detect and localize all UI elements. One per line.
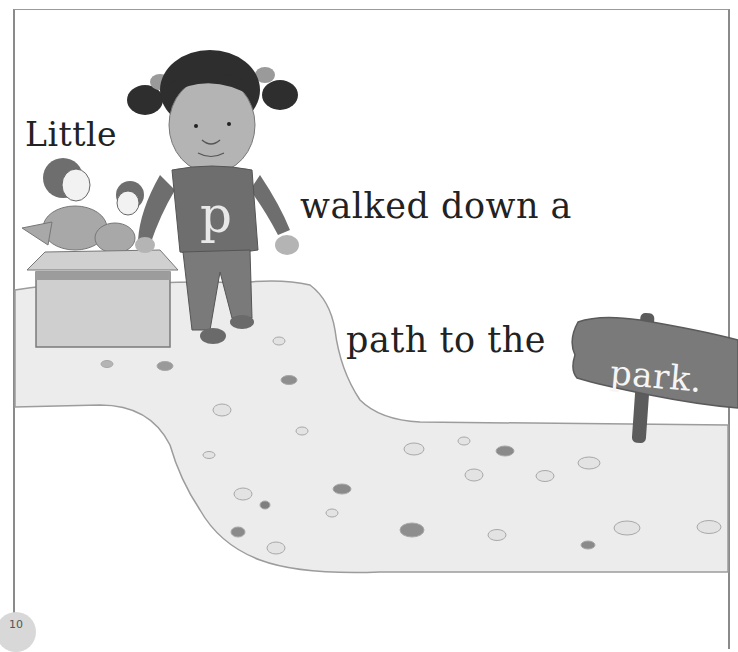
story-text-line-3: path to the (346, 320, 546, 360)
story-text-line-2: walked down a (300, 186, 572, 226)
story-text-line-1: Little (25, 115, 117, 154)
sign-text: park. (609, 352, 704, 400)
sweater-letter: p (200, 186, 232, 244)
